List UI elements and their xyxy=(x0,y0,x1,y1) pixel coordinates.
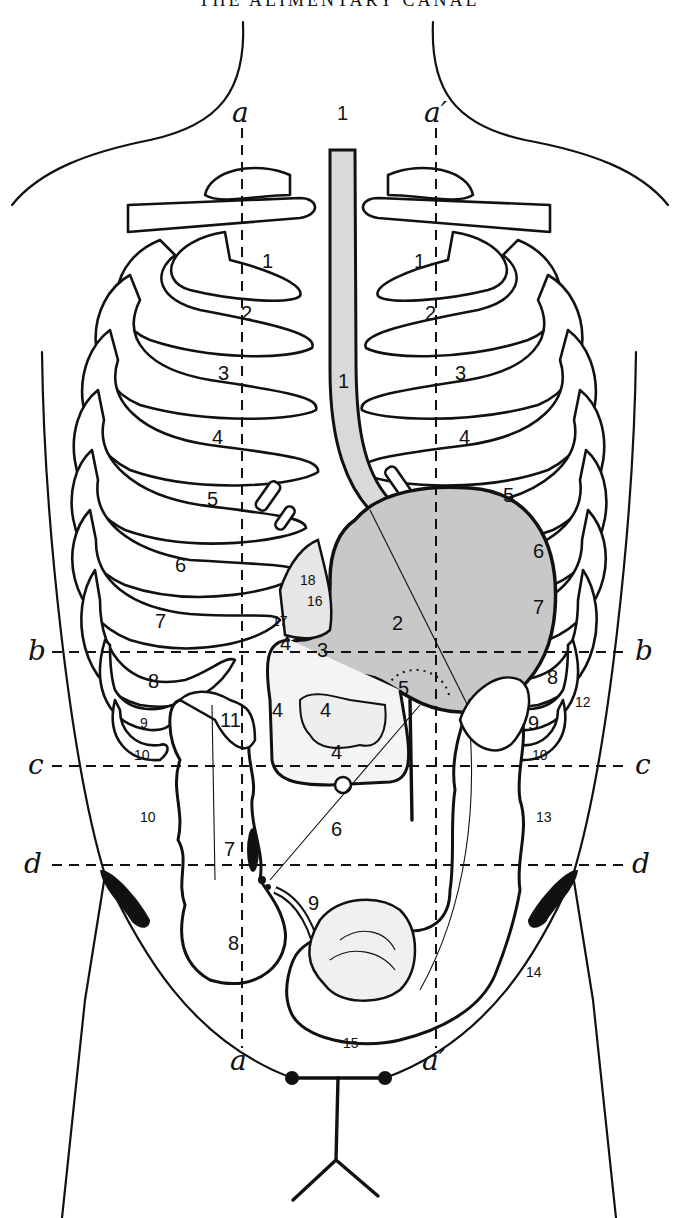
right-rib-9-label: 9 xyxy=(528,712,539,734)
pancreas-head-label: 5 xyxy=(398,677,409,699)
left-rib-2-label: 2 xyxy=(241,302,252,324)
left-rib-1-label: 1 xyxy=(262,250,273,272)
alimentary-canal-diagram: THE ALIMENTARY CANAL xyxy=(0,0,678,1218)
left-rib-8-label: 8 xyxy=(148,670,159,692)
line-b-left-label: b xyxy=(28,634,46,667)
jejunum-label: 6 xyxy=(331,818,342,840)
rectum-loop-label: 15 xyxy=(343,1035,359,1051)
line-d-right-label: d xyxy=(632,847,650,880)
liver-region-label: 16 xyxy=(307,593,323,609)
splenic-flexure-label: 12 xyxy=(575,694,591,710)
page-header-title: THE ALIMENTARY CANAL xyxy=(0,0,678,11)
stomach-label: 2 xyxy=(392,612,403,634)
line-a-prime-top-label: a′ xyxy=(424,96,448,129)
line-c-left-label: c xyxy=(28,748,44,781)
left-rib-3-label: 3 xyxy=(218,362,229,384)
label-18: 18 xyxy=(300,572,316,588)
esophagus-mid-label: 1 xyxy=(338,370,349,392)
hepatic-flexure-label: 11 xyxy=(220,709,241,731)
left-rib-9-label: 9 xyxy=(140,715,148,731)
duodenum-inner-label: 4 xyxy=(320,699,331,721)
line-a-top-label: a xyxy=(232,96,249,129)
right-rib-8-label: 8 xyxy=(547,666,558,688)
esophagus-top-label: 1 xyxy=(337,102,348,124)
left-rib-6-label: 6 xyxy=(175,554,186,576)
line-a-prime-bottom-label: a′ xyxy=(422,1044,446,1077)
sigmoid-label: 14 xyxy=(526,964,542,980)
right-rib-10-label: 10 xyxy=(532,747,548,763)
right-rib-4-label: 4 xyxy=(459,426,470,448)
right-rib-5-label: 5 xyxy=(503,484,514,506)
liver-region xyxy=(280,540,331,638)
right-rib-7-label: 7 xyxy=(533,596,544,618)
left-rib-5-label: 5 xyxy=(207,488,218,510)
right-rib-2-label: 2 xyxy=(425,302,436,324)
right-rib-6-label: 6 xyxy=(533,540,544,562)
line-b-right-label: b xyxy=(635,634,653,667)
pylorus-label: 3 xyxy=(317,639,328,661)
cecum-label: 8 xyxy=(228,932,239,954)
ascending-colon-label: 10 xyxy=(140,809,156,825)
duodenum-upper-label: 4 xyxy=(280,632,291,654)
left-rib-10-label: 10 xyxy=(134,747,150,763)
duodenum-left-label: 4 xyxy=(272,699,283,721)
line-c-right-label: c xyxy=(635,748,651,781)
descending-colon-label: 13 xyxy=(536,809,552,825)
appendix-label: 9 xyxy=(308,892,319,914)
ileocecal-label: 7 xyxy=(224,838,235,860)
right-rib-1-label: 1 xyxy=(414,250,425,272)
line-d-left-label: d xyxy=(24,847,42,880)
arrow-17-label: 17 xyxy=(272,613,288,629)
right-rib-3-label: 3 xyxy=(455,362,466,384)
left-rib-4-label: 4 xyxy=(212,426,223,448)
left-rib-7-label: 7 xyxy=(155,610,166,632)
duodenum-lower-label: 4 xyxy=(331,741,342,763)
line-a-bottom-label: a xyxy=(230,1044,247,1077)
